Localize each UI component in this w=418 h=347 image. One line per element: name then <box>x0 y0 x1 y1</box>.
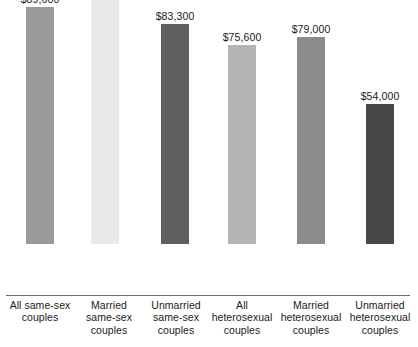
bar-chart: $89,600 $106,000 $83,300 $75,600 $79,000… <box>0 0 418 347</box>
tick-label-line-1: Married <box>273 299 349 311</box>
bar-value-label-6: $54,000 <box>361 90 400 102</box>
bar-group-1: $89,600 <box>26 7 54 244</box>
x-axis-tick-labels: All same-sex couples Married same-sex co… <box>0 299 418 347</box>
tick-label-line-2: same-sex <box>72 311 146 323</box>
tick-label-unmarried-heterosexual-couples: Unmarried heterosexual couples <box>342 299 418 336</box>
tick-label-line-2: heterosexual <box>273 311 349 323</box>
tick-label-married-heterosexual-couples: Married heterosexual couples <box>273 299 349 336</box>
tick-label-line-1: Married <box>72 299 146 311</box>
bar-all-same-sex-couples[interactable] <box>26 7 54 244</box>
bar-unmarried-same-sex-couples[interactable] <box>161 24 189 244</box>
bar-group-2: $106,000 <box>91 0 119 244</box>
tick-label-line-3: couples <box>342 324 418 336</box>
bar-all-heterosexual-couples[interactable] <box>228 45 256 244</box>
tick-label-line-1: Unmarried <box>342 299 418 311</box>
tick-label-line-3: couples <box>138 324 214 336</box>
tick-label-line-2: couples <box>0 311 80 323</box>
tick-label-line-1: All same-sex <box>0 299 80 311</box>
tick-label-unmarried-same-sex-couples: Unmarried same-sex couples <box>138 299 214 336</box>
tick-label-line-2: heterosexual <box>342 311 418 323</box>
tick-label-married-same-sex-couples: Married same-sex couples <box>72 299 146 336</box>
bar-value-label-5: $79,000 <box>292 23 331 35</box>
tick-label-all-heterosexual-couples: All heterosexual couples <box>204 299 280 336</box>
bar-group-6: $54,000 <box>366 104 394 244</box>
tick-label-line-3: couples <box>72 324 146 336</box>
bar-married-same-sex-couples[interactable] <box>91 0 119 244</box>
bar-value-label-1: $89,600 <box>21 0 60 5</box>
tick-label-line-1: All <box>204 299 280 311</box>
tick-label-line-3: couples <box>273 324 349 336</box>
bar-married-heterosexual-couples[interactable] <box>297 37 325 244</box>
bar-group-5: $79,000 <box>297 37 325 244</box>
bar-value-label-3: $83,300 <box>156 10 195 22</box>
tick-label-line-2: heterosexual <box>204 311 280 323</box>
x-axis-line <box>6 295 410 296</box>
bar-group-3: $83,300 <box>161 24 189 244</box>
tick-label-line-3: couples <box>204 324 280 336</box>
bar-group-4: $75,600 <box>228 45 256 244</box>
bar-value-label-4: $75,600 <box>223 31 262 43</box>
bar-unmarried-heterosexual-couples[interactable] <box>366 104 394 244</box>
tick-label-line-1: Unmarried <box>138 299 214 311</box>
plot-area: $89,600 $106,000 $83,300 $75,600 $79,000… <box>0 0 418 296</box>
tick-label-line-2: same-sex <box>138 311 214 323</box>
tick-label-all-same-sex-couples: All same-sex couples <box>0 299 80 324</box>
